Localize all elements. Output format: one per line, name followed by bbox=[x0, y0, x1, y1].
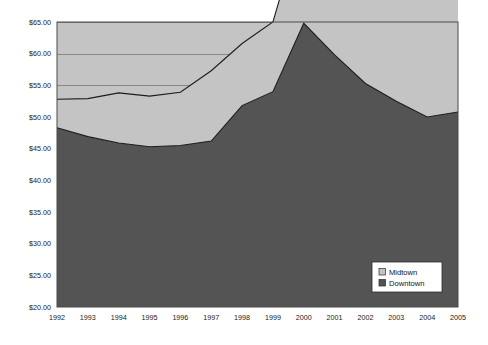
legend-label-downtown: Downtown bbox=[389, 279, 424, 288]
y-tick-label: $30.00 bbox=[29, 239, 51, 248]
x-tick-label: 2004 bbox=[419, 313, 435, 322]
y-tick-label: $55.00 bbox=[29, 81, 51, 90]
x-tick-label: 1997 bbox=[203, 313, 219, 322]
x-tick-label: 1993 bbox=[80, 313, 96, 322]
x-tick-label: 1995 bbox=[142, 313, 158, 322]
y-tick-label: $20.00 bbox=[29, 303, 51, 312]
legend-swatch-midtown bbox=[379, 269, 386, 276]
legend-swatch-downtown bbox=[379, 280, 386, 287]
x-tick-label: 1999 bbox=[265, 313, 281, 322]
x-tick-label: 2002 bbox=[357, 313, 373, 322]
legend-background bbox=[372, 262, 442, 292]
x-tick-label: 1998 bbox=[234, 313, 250, 322]
y-tick-label: $25.00 bbox=[29, 271, 51, 280]
y-tick-label: $35.00 bbox=[29, 208, 51, 217]
x-tick-label: 2000 bbox=[296, 313, 312, 322]
chart-legend: Midtown Downtown bbox=[372, 262, 442, 292]
x-tick-label: 1996 bbox=[172, 313, 188, 322]
x-tick-label: 2003 bbox=[388, 313, 404, 322]
x-tick-label: 1992 bbox=[49, 313, 65, 322]
legend-label-midtown: Midtown bbox=[389, 268, 417, 277]
x-tick-label: 1994 bbox=[111, 313, 127, 322]
x-tick-label: 2005 bbox=[450, 313, 466, 322]
y-tick-label: $45.00 bbox=[29, 144, 51, 153]
y-tick-label: $50.00 bbox=[29, 113, 51, 122]
y-tick-label: $60.00 bbox=[29, 49, 51, 58]
x-tick-label: 2001 bbox=[327, 313, 343, 322]
chart-canvas: $20.00$25.00$30.00$35.00$40.00$45.00$50.… bbox=[0, 0, 488, 345]
stacked-area-chart: $20.00$25.00$30.00$35.00$40.00$45.00$50.… bbox=[0, 0, 488, 345]
y-tick-label: $65.00 bbox=[29, 18, 51, 27]
y-tick-label: $40.00 bbox=[29, 176, 51, 185]
